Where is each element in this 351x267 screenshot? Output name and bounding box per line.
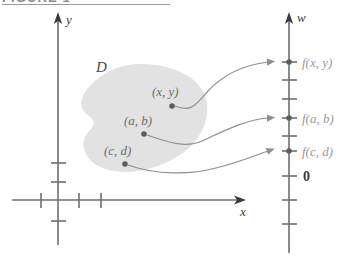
figure-svg: D y x (x, y) (a, b) [0,0,351,267]
point-dot-xy [169,103,175,109]
value-dot-fcd [286,148,292,154]
point-label-ab: (a, b) [124,113,152,128]
point-label-cd: (c, d) [104,143,131,158]
figure-container: FIGURE 1 D y x [0,0,351,267]
point-label-xy: (x, y) [152,84,179,99]
value-label-fxy: f(x, y) [302,55,332,70]
region-d-label: D [95,59,107,75]
point-dot-ab [141,131,147,137]
w-axis-group: w f(x, y) f(a, b) f(c, d) 0 [282,10,334,253]
value-dot-fab [286,115,292,121]
value-dot-fxy [286,59,292,65]
point-dot-cd [122,161,128,167]
value-label-fcd: f(c, d) [302,144,333,159]
value-label-fab: f(a, b) [302,111,334,126]
x-axis-label: x [239,204,246,219]
y-axis-label: y [64,12,72,27]
w-axis-origin-label: 0 [303,169,310,184]
w-axis-label: w [297,10,306,25]
